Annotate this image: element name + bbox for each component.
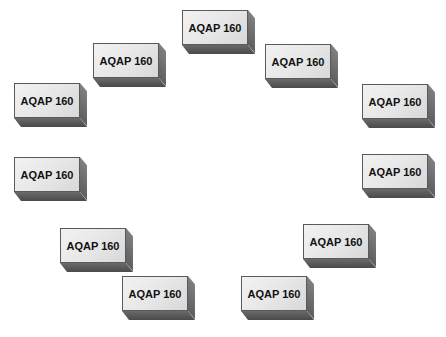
box-bottom-face xyxy=(122,311,195,320)
box-front-face: AQAP 160 xyxy=(122,276,188,311)
box-bottom-face xyxy=(265,79,338,88)
box-label: AQAP 160 xyxy=(189,22,242,34)
box-right-upper: AQAP 160 xyxy=(362,84,428,119)
box-lower-left: AQAP 160 xyxy=(60,228,126,263)
box-bottom-face xyxy=(182,45,255,54)
box-label: AQAP 160 xyxy=(129,288,182,300)
box-bottom-face xyxy=(362,119,435,128)
box-label: AQAP 160 xyxy=(21,169,74,181)
box-bottom-left: AQAP 160 xyxy=(122,276,188,311)
box-front-face: AQAP 160 xyxy=(241,276,307,311)
box-upper-left: AQAP 160 xyxy=(93,43,159,78)
box-front-face: AQAP 160 xyxy=(93,43,159,78)
box-front-face: AQAP 160 xyxy=(362,84,428,119)
box-label: AQAP 160 xyxy=(21,95,74,107)
box-lower-right: AQAP 160 xyxy=(303,224,369,259)
box-label: AQAP 160 xyxy=(310,236,363,248)
box-bottom-face xyxy=(14,118,87,127)
box-front-face: AQAP 160 xyxy=(265,44,331,79)
box-right-lower: AQAP 160 xyxy=(362,154,428,189)
box-bottom-right: AQAP 160 xyxy=(241,276,307,311)
box-front-face: AQAP 160 xyxy=(182,10,248,45)
box-bottom-face xyxy=(303,259,376,268)
box-upper-right: AQAP 160 xyxy=(265,44,331,79)
box-top: AQAP 160 xyxy=(182,10,248,45)
box-bottom-face xyxy=(60,263,133,272)
box-bottom-face xyxy=(362,189,435,198)
box-label: AQAP 160 xyxy=(100,55,153,67)
box-label: AQAP 160 xyxy=(272,56,325,68)
box-front-face: AQAP 160 xyxy=(303,224,369,259)
box-label: AQAP 160 xyxy=(248,288,301,300)
box-front-face: AQAP 160 xyxy=(362,154,428,189)
box-front-face: AQAP 160 xyxy=(14,83,80,118)
box-front-face: AQAP 160 xyxy=(14,157,80,192)
box-label: AQAP 160 xyxy=(67,240,120,252)
box-front-face: AQAP 160 xyxy=(60,228,126,263)
box-label: AQAP 160 xyxy=(369,96,422,108)
box-label: AQAP 160 xyxy=(369,166,422,178)
box-bottom-face xyxy=(93,78,166,87)
box-bottom-face xyxy=(14,192,87,201)
box-left-lower: AQAP 160 xyxy=(14,157,80,192)
box-left-upper: AQAP 160 xyxy=(14,83,80,118)
box-bottom-face xyxy=(241,311,314,320)
